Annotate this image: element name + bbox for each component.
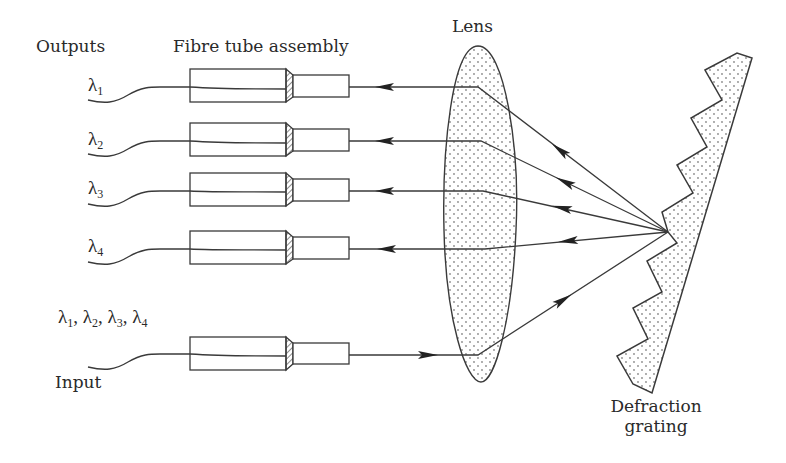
fibre-tube-assembly-label: Fibre tube assembly	[173, 36, 349, 56]
input-wavelengths-label: λ1, λ2, λ3, λ4	[58, 306, 147, 331]
lens	[444, 46, 517, 382]
diffraction-grating	[617, 53, 752, 393]
demultiplexer-diagram: Outputs Fibre tube assembly Lens λ1 λ2 λ…	[0, 0, 786, 463]
lens-label: Lens	[452, 16, 493, 36]
fibre-tube-3	[88, 173, 349, 206]
outputs-label: Outputs	[36, 36, 105, 56]
fibre-tube-4	[88, 231, 349, 264]
output-wavelength-2: λ2	[88, 128, 103, 153]
output-wavelength-4: λ4	[88, 235, 103, 260]
fibre-tube-input	[88, 337, 349, 370]
fibre-tube-1	[88, 69, 349, 102]
output-wavelength-1: λ1	[88, 74, 103, 99]
grating-label: Defraction grating	[596, 396, 716, 436]
input-label: Input	[55, 372, 101, 392]
arrow-diagonal-icon	[554, 174, 575, 190]
diagram-canvas	[0, 0, 786, 463]
fibre-tube-2	[88, 123, 349, 156]
arrow-diagonal-icon	[551, 202, 572, 214]
arrow-diagonal-icon	[552, 291, 573, 309]
output-wavelength-3: λ3	[88, 177, 103, 202]
